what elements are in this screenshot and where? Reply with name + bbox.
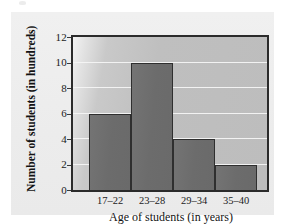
y-tick-label: 6 xyxy=(23,108,67,119)
bar xyxy=(131,63,173,191)
y-tick-mark xyxy=(67,165,71,166)
bar xyxy=(89,114,131,191)
y-tick-mark xyxy=(67,63,71,64)
y-tick-label: 2 xyxy=(23,159,67,170)
x-axis-title: Age of students (in years) xyxy=(51,210,285,224)
y-tick-label: 8 xyxy=(23,83,67,94)
y-tick-label: 4 xyxy=(23,134,67,145)
y-tick-label: 10 xyxy=(23,57,67,68)
x-tick-label: 35–40 xyxy=(210,195,262,207)
bar xyxy=(173,139,215,190)
y-tick-mark xyxy=(67,37,71,38)
y-tick-mark xyxy=(67,88,71,89)
y-tick-mark xyxy=(67,114,71,115)
x-axis-ticks: 17–2223–2829–3435–40 xyxy=(71,195,269,209)
figure-panel: Number of students (in hundreds) 0246810… xyxy=(11,12,274,215)
y-tick-mark xyxy=(67,190,71,191)
bar xyxy=(215,165,257,191)
y-tick-label: 0 xyxy=(23,185,67,196)
y-axis-ticks: 024681012 xyxy=(21,35,67,192)
plot-area xyxy=(71,35,269,192)
y-tick-mark xyxy=(67,139,71,140)
scan-artifact xyxy=(19,1,26,5)
figure: Number of students (in hundreds) 0246810… xyxy=(0,0,285,224)
y-tick-label: 12 xyxy=(23,32,67,43)
